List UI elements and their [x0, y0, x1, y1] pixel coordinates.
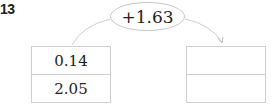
left-box: 0.14 2.05: [31, 46, 111, 103]
right-box-top-blank[interactable]: [187, 47, 265, 75]
left-box-top-value: 0.14: [32, 47, 110, 75]
operation-ellipse: +1.63: [110, 2, 185, 31]
operation-label: +1.63: [121, 7, 173, 27]
left-box-bottom-value: 2.05: [32, 75, 110, 103]
right-box: [186, 46, 266, 103]
right-box-bottom-blank[interactable]: [187, 75, 265, 103]
